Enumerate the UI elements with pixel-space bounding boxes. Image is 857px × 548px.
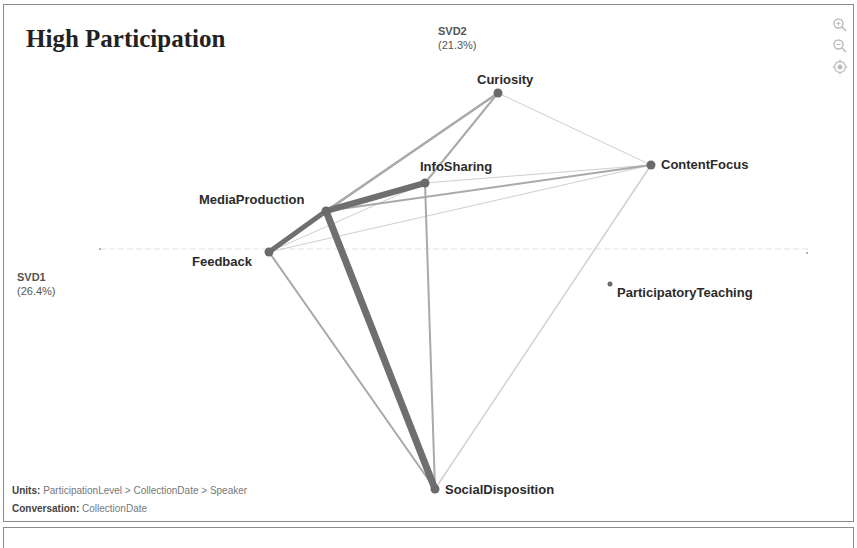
conversation-info: Conversation: CollectionDate — [12, 503, 147, 514]
plot-title: High Participation — [26, 25, 225, 53]
edge-infosharing-socialdisposition — [425, 183, 435, 489]
y-axis-label: SVD2 (21.3%) — [438, 24, 477, 52]
node-curiosity[interactable] — [494, 89, 503, 98]
edges — [269, 93, 651, 489]
node-contentfocus[interactable] — [647, 161, 656, 170]
edge-feedback-socialdisposition — [269, 252, 435, 489]
nodes — [265, 89, 656, 494]
units-info: Units: ParticipationLevel > CollectionDa… — [12, 485, 247, 496]
recenter-icon[interactable] — [832, 59, 848, 75]
zoom-out-icon[interactable] — [832, 38, 848, 54]
edge-mediaproduction-socialdisposition — [326, 211, 435, 489]
node-label-infosharing: InfoSharing — [420, 159, 492, 174]
edge-contentfocus-socialdisposition — [435, 165, 651, 489]
node-socialdisposition[interactable] — [431, 485, 440, 494]
x-axis-label: SVD1 (26.4%) — [17, 270, 56, 298]
node-participatoryteaching[interactable] — [608, 282, 613, 287]
edge-mediaproduction-curiosity — [326, 93, 498, 211]
node-label-mediaproduction: MediaProduction — [199, 192, 304, 207]
node-mediaproduction[interactable] — [322, 207, 331, 216]
node-infosharing[interactable] — [421, 179, 430, 188]
edge-mediaproduction-infosharing — [326, 183, 425, 211]
node-label-contentfocus: ContentFocus — [661, 157, 748, 172]
node-label-participatoryteaching: ParticipatoryTeaching — [617, 285, 753, 300]
zoom-in-icon[interactable] — [832, 17, 848, 33]
node-label-socialdisposition: SocialDisposition — [445, 482, 554, 497]
edge-curiosity-contentfocus — [498, 93, 651, 165]
node-label-feedback: Feedback — [192, 254, 252, 269]
node-feedback[interactable] — [265, 248, 274, 257]
node-label-curiosity: Curiosity — [477, 72, 533, 87]
